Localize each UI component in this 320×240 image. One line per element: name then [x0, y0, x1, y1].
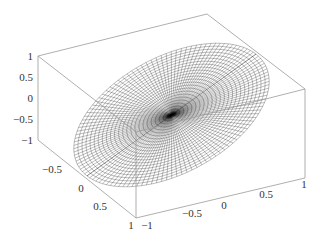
x-tick: 1	[301, 178, 307, 190]
y-tick: 1	[128, 219, 134, 231]
x-axis-ticks: −1 −0.5 0 0.5 1	[141, 178, 307, 231]
y-tick: 0	[78, 182, 84, 194]
z-tick: 1	[28, 50, 34, 62]
z-tick: −0.5	[13, 113, 33, 125]
x-tick: 0.5	[259, 188, 273, 200]
y-tick: −0.5	[42, 163, 62, 175]
box-bottom-right-edge	[136, 178, 305, 218]
surface-plot: 1 0.5 0 −0.5 −1 −0.5 0 0.5 1 −1 −0.5 0 0…	[0, 0, 320, 240]
x-tick: −0.5	[182, 207, 202, 219]
z-axis-ticks: 1 0.5 0 −0.5 −1	[13, 50, 33, 146]
y-axis-ticks: −0.5 0 0.5 1	[42, 163, 134, 231]
surface-mesh	[74, 43, 269, 187]
z-tick: −1	[21, 134, 33, 146]
z-tick: 0	[28, 92, 34, 104]
x-tick: −1	[141, 219, 153, 231]
y-tick: 0.5	[93, 200, 107, 212]
z-tick: 0.5	[19, 71, 33, 83]
x-tick: 0	[221, 199, 227, 211]
